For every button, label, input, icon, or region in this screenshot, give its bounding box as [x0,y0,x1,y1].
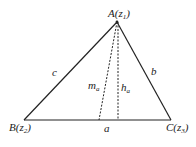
vertex-b-label: B(z2) [9,121,31,135]
side-b-label: b [151,65,157,77]
vertex-c-label: C(z3) [166,121,189,135]
triangle-diagram: A(z1) B(z2) C(z3) c b a ma ha [0,0,196,147]
side-c-label: c [52,66,57,78]
median-label: ma [88,79,100,93]
altitude-label: ha [121,81,131,95]
side-b [117,22,171,120]
side-a-label: a [104,122,110,134]
vertex-a-label: A(z1) [107,7,130,21]
median-line [99,22,117,120]
vertex-a-point [116,21,119,24]
side-c [24,22,117,120]
